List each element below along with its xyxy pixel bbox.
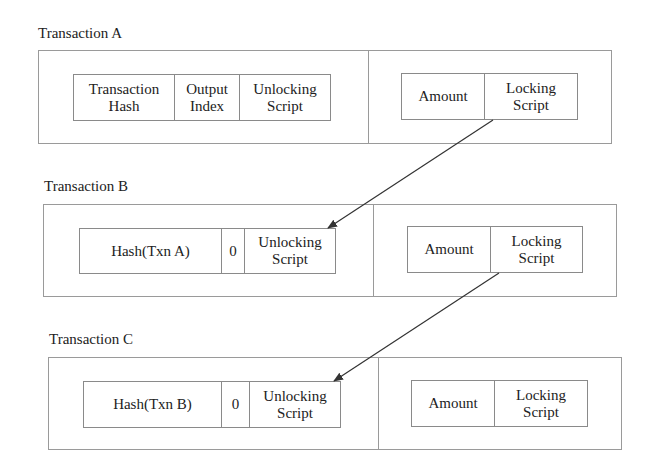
amount-field: Amount: [402, 74, 484, 119]
input-output-divider: [378, 358, 379, 449]
transaction-b-output: Amount Locking Script: [407, 226, 583, 273]
hash-field: Hash(Txn B): [84, 382, 221, 427]
transaction-b-title: Transaction B: [44, 178, 128, 195]
transaction-a-title: Transaction A: [38, 25, 122, 42]
locking-script-field: Locking Script: [494, 381, 587, 426]
transaction-c-input: Hash(Txn B) 0 Unlocking Script: [83, 381, 341, 428]
amount-field: Amount: [408, 227, 490, 272]
unlocking-script-field: Unlocking Script: [239, 75, 330, 120]
amount-field: Amount: [412, 381, 494, 426]
transaction-a-input: Transaction Hash Output Index Unlocking …: [73, 74, 331, 121]
input-output-divider: [373, 205, 374, 296]
unlocking-script-field: Unlocking Script: [249, 382, 340, 427]
transaction-c-title: Transaction C: [49, 331, 133, 348]
hash-field: Hash(Txn A): [80, 229, 221, 273]
locking-script-field: Locking Script: [490, 227, 582, 272]
transaction-c-output: Amount Locking Script: [411, 380, 588, 427]
output-index-field: 0: [221, 382, 249, 427]
output-index-field: Output Index: [174, 75, 239, 120]
unlocking-script-field: Unlocking Script: [244, 229, 335, 273]
input-output-divider: [368, 51, 369, 143]
transaction-hash-field: Transaction Hash: [74, 75, 174, 120]
transaction-a-output: Amount Locking Script: [401, 73, 578, 120]
transaction-b-input: Hash(Txn A) 0 Unlocking Script: [79, 228, 336, 274]
output-index-field: 0: [221, 229, 244, 273]
locking-script-field: Locking Script: [484, 74, 577, 119]
